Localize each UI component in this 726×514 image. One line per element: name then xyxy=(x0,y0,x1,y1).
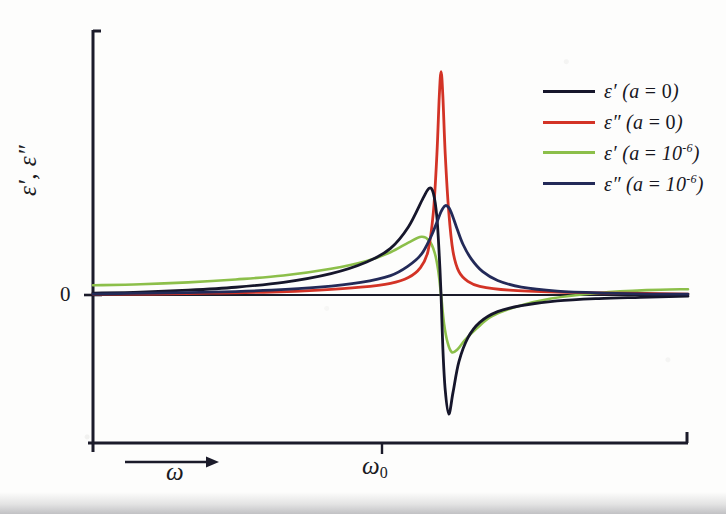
y-axis-label: ε′, ε″ xyxy=(14,145,42,196)
omega-axis-label: ω xyxy=(166,458,184,486)
legend-swatch-4 xyxy=(543,182,595,185)
omega0-axis-label: ω0 xyxy=(362,452,388,482)
legend-swatch-2 xyxy=(543,121,595,124)
figure-canvas: ε′, ε″ 0 ω ω0 ε′ (a = 0)ε″ (a = 0)ε′ (a … xyxy=(0,0,726,514)
legend-label-2: ε″ (a = 0) xyxy=(604,111,683,134)
legend-item-4[interactable]: ε″ (a = 10-6) xyxy=(543,172,704,196)
legend-label-4: ε″ (a = 10-6) xyxy=(604,172,704,196)
y-zero-label: 0 xyxy=(60,282,71,307)
legend-swatch-3 xyxy=(543,151,595,154)
legend-label-1: ε′ (a = 0) xyxy=(604,80,679,103)
legend-label-3: ε′ (a = 10-6) xyxy=(604,141,700,165)
curve-1 xyxy=(93,188,688,414)
legend-item-2[interactable]: ε″ (a = 0) xyxy=(543,111,683,134)
legend-item-3[interactable]: ε′ (a = 10-6) xyxy=(543,141,700,165)
plot-svg xyxy=(0,0,726,514)
legend-item-1[interactable]: ε′ (a = 0) xyxy=(543,80,679,103)
omega0-symbol: ω xyxy=(362,452,380,479)
legend-swatch-1 xyxy=(543,90,595,93)
omega0-subscript: 0 xyxy=(380,464,388,481)
